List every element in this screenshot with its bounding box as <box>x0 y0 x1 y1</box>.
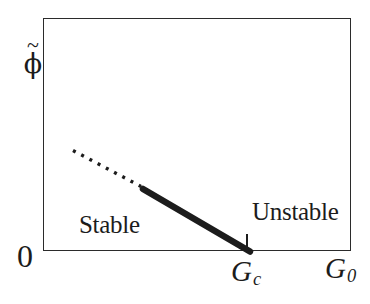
stability-diagram-figure: ~ ϕ 0 Stable Unstable Gc G0 <box>0 0 370 304</box>
critical-point-letter: G <box>231 255 252 287</box>
x-axis-subscript: 0 <box>347 265 356 286</box>
region-label-unstable: Unstable <box>252 199 338 224</box>
y-axis-label: ~ ϕ <box>20 40 46 78</box>
critical-point-label: Gc <box>231 257 261 286</box>
origin-label: 0 <box>17 240 33 272</box>
region-label-stable: Stable <box>79 212 140 237</box>
x-axis-label: G0 <box>325 254 356 283</box>
phi-symbol: ϕ <box>24 50 42 78</box>
critical-point-subscript: c <box>253 268 261 289</box>
x-axis-letter: G <box>325 252 346 284</box>
